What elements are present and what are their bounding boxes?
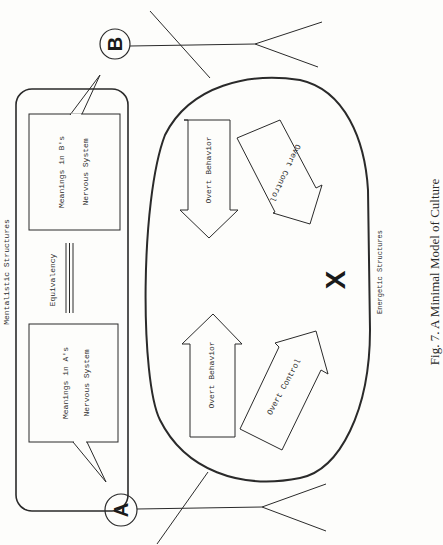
box-b-tail — [70, 75, 100, 115]
energetic-label: Energetic Structures — [376, 230, 384, 314]
box-a-meanings — [29, 324, 118, 442]
figure-caption: Fig. 7. A Minimal Model of Culture — [427, 179, 442, 366]
person-a-label: A — [110, 503, 132, 517]
box-b-meanings — [29, 114, 120, 230]
diagram-canvas: Mentalistic Structures Meanings in B's N… — [0, 0, 443, 545]
a-behavior-label: Overt Behavior — [207, 341, 216, 408]
mentalistic-container — [16, 89, 128, 511]
b-behavior-label: Overt Behavior — [204, 136, 213, 203]
center-x-mark: X — [320, 270, 351, 289]
box-b-line1: Meanings in B's — [57, 136, 66, 208]
box-a-tail — [73, 442, 106, 482]
person-a-leg-1 — [262, 484, 326, 507]
person-b-body — [130, 44, 255, 46]
person-b-leg-2 — [255, 44, 318, 67]
person-b-label: B — [104, 37, 126, 51]
b-control-label: Overt Control — [268, 143, 303, 204]
person-a-body — [137, 507, 262, 509]
b-control-arrow — [237, 120, 322, 224]
mentalistic-label: Mentalistic Structures — [2, 219, 11, 325]
a-control-label: Overt Control — [265, 357, 302, 417]
box-a-line2: Nervous System — [82, 349, 91, 416]
equivalency-label: Equivalency — [48, 253, 57, 306]
person-b-leg-1 — [255, 22, 322, 44]
box-a-line1: Meanings in A's — [61, 347, 70, 419]
person-a-leg-2 — [262, 507, 326, 531]
box-b-line2: Nervous System — [81, 138, 90, 205]
